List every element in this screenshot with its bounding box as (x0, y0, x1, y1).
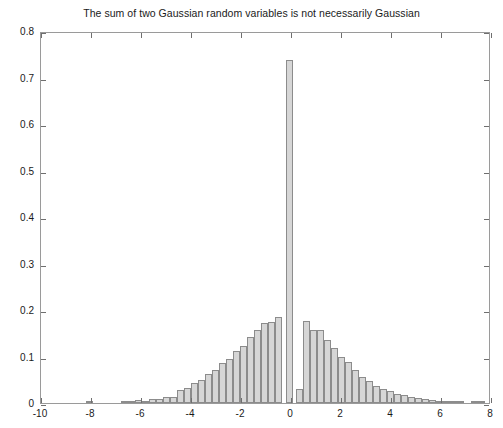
histogram-bar (331, 348, 338, 403)
y-tick-right (484, 126, 489, 127)
histogram-bar (163, 397, 170, 403)
y-tick-right (484, 359, 489, 360)
y-tick-right (484, 312, 489, 313)
x-tick-top (91, 33, 92, 38)
histogram-bar (408, 397, 415, 403)
y-tick (41, 312, 46, 313)
x-tick-top (441, 33, 442, 38)
plot-area (40, 32, 490, 404)
histogram-bar (156, 399, 163, 403)
histogram-bar (142, 401, 149, 403)
x-tick-top (341, 33, 342, 38)
histogram-bar (296, 389, 303, 403)
x-tick-top (141, 33, 142, 38)
histogram-bar (478, 401, 485, 403)
histogram-bar (457, 401, 464, 403)
x-axis-tick-label: -6 (120, 408, 160, 419)
chart-title: The sum of two Gaussian random variables… (0, 7, 503, 19)
histogram-bar (86, 401, 93, 403)
histogram-bar (170, 397, 177, 404)
x-tick-top (491, 33, 492, 38)
x-axis-tick-label: 4 (370, 408, 410, 419)
x-axis-tick-label: -4 (170, 408, 210, 419)
y-axis-tick-label: 0.7 (0, 73, 34, 84)
histogram-bar (198, 380, 205, 403)
y-tick-right (484, 33, 489, 34)
x-tick (341, 398, 342, 403)
histogram-bar (471, 401, 478, 403)
y-axis-tick-label: 0.5 (0, 166, 34, 177)
x-tick (491, 398, 492, 403)
histogram-bar (219, 363, 226, 403)
y-tick-right (484, 266, 489, 267)
x-tick (241, 398, 242, 403)
x-axis-tick-label: 8 (470, 408, 503, 419)
histogram-bar (380, 389, 387, 403)
y-axis-tick-label: 0.6 (0, 119, 34, 130)
y-tick (41, 33, 46, 34)
x-tick (41, 398, 42, 403)
histogram-bar (212, 370, 219, 403)
y-tick-right (484, 80, 489, 81)
histogram-bar (286, 60, 293, 403)
histogram-bar (240, 346, 247, 403)
histogram-bar (247, 337, 254, 403)
histogram-bar (415, 398, 422, 403)
histogram-bar (443, 401, 450, 403)
histogram-bar (191, 383, 198, 403)
histogram-bar (226, 359, 233, 403)
x-tick-top (241, 33, 242, 38)
y-axis-tick-label: 0.1 (0, 352, 34, 363)
histogram-bar (205, 374, 212, 403)
histogram-bar (149, 399, 156, 403)
histogram-bar (401, 395, 408, 403)
histogram-bar (345, 362, 352, 403)
x-axis-tick-label: 6 (420, 408, 460, 419)
y-tick (41, 405, 46, 406)
histogram-bar (422, 399, 429, 403)
y-tick (41, 126, 46, 127)
histogram-bar (177, 390, 184, 403)
x-tick (191, 398, 192, 403)
histogram-bar (128, 401, 135, 403)
y-tick (41, 173, 46, 174)
x-tick-top (291, 33, 292, 38)
histogram-bar (275, 317, 282, 403)
histogram-bar (303, 321, 310, 403)
figure-canvas: The sum of two Gaussian random variables… (0, 0, 503, 428)
histogram-bar (359, 377, 366, 404)
histogram-bar (324, 340, 331, 403)
x-axis-tick-label: 0 (270, 408, 310, 419)
y-tick (41, 266, 46, 267)
x-tick (441, 398, 442, 403)
histogram-bar (310, 330, 317, 403)
y-tick-right (484, 405, 489, 406)
y-tick (41, 80, 46, 81)
histogram-bar (436, 401, 443, 403)
x-tick-top (191, 33, 192, 38)
y-axis-tick-label: 0.2 (0, 305, 34, 316)
histogram-bars (41, 33, 489, 403)
x-axis-tick-label: -8 (70, 408, 110, 419)
y-axis-tick-label: 0.4 (0, 212, 34, 223)
x-tick (391, 398, 392, 403)
histogram-bar (254, 330, 261, 403)
x-tick (291, 398, 292, 403)
histogram-bar (261, 323, 268, 403)
y-axis-tick-label: 0.3 (0, 259, 34, 270)
histogram-bar (317, 330, 324, 403)
x-tick (141, 398, 142, 403)
histogram-bar (450, 401, 457, 403)
histogram-bar (366, 381, 373, 403)
histogram-bar (268, 322, 275, 403)
y-axis-tick-label: 0.8 (0, 26, 34, 37)
y-axis-tick-label: 0 (0, 398, 34, 409)
histogram-bar (429, 400, 436, 403)
x-axis-tick-label: -2 (220, 408, 260, 419)
x-tick-top (391, 33, 392, 38)
y-tick-right (484, 219, 489, 220)
histogram-bar (121, 401, 128, 403)
y-tick (41, 359, 46, 360)
y-tick-right (484, 173, 489, 174)
histogram-bar (233, 351, 240, 403)
